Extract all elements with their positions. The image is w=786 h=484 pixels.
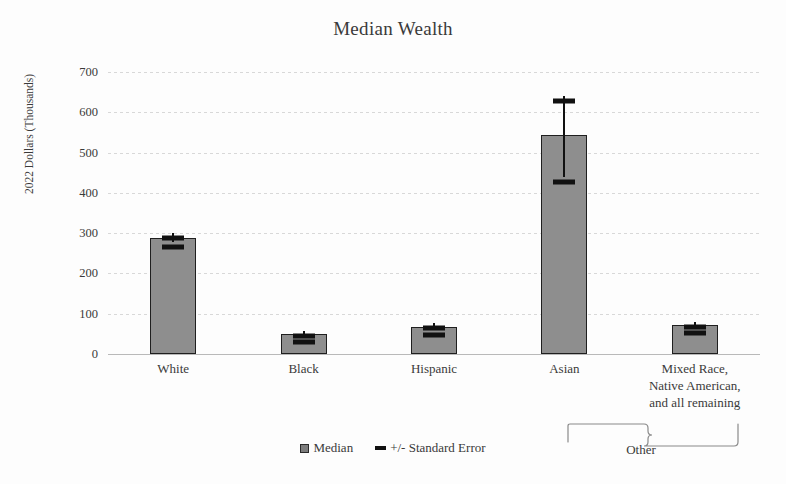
x-axis-label-line: Mixed Race, xyxy=(630,360,760,377)
bar-slot xyxy=(238,72,368,354)
legend-dash-icon xyxy=(375,446,386,450)
legend-item[interactable]: Median xyxy=(300,440,353,456)
x-axis-label-line: Native American, xyxy=(630,377,760,394)
error-bar-upper-cap xyxy=(684,324,706,329)
y-axis-tick-labels: 7006005004003002001000 xyxy=(52,72,98,354)
x-axis-label: Hispanic xyxy=(369,360,499,377)
x-axis-label: Asian xyxy=(499,360,629,377)
x-axis-label: White xyxy=(108,360,238,377)
y-axis-title: 2022 Dollars (Thousands) xyxy=(23,39,35,229)
chart-title: Median Wealth xyxy=(0,18,786,40)
error-bar-lower-cap xyxy=(684,331,706,336)
x-axis-label-line: Asian xyxy=(499,360,629,377)
x-axis-label-line: Black xyxy=(238,360,368,377)
x-axis-label: Black xyxy=(238,360,368,377)
plot-area xyxy=(108,72,760,354)
error-bar-lower-cap xyxy=(423,332,445,337)
error-bar-upper-cap xyxy=(553,99,575,104)
legend-square-icon xyxy=(300,444,309,453)
bar-slot xyxy=(630,72,760,354)
error-bar-lower-cap xyxy=(162,245,184,250)
y-tick-label: 700 xyxy=(52,65,98,80)
bar[interactable] xyxy=(150,238,196,354)
legend-label: +/- Standard Error xyxy=(390,440,485,456)
y-tick-label: 600 xyxy=(52,105,98,120)
bar[interactable] xyxy=(411,327,457,354)
error-bar-upper-cap xyxy=(423,325,445,330)
chart-legend: Median+/- Standard Error xyxy=(0,440,786,456)
axis-baseline xyxy=(108,354,760,355)
error-bar-lower-cap xyxy=(553,179,575,184)
y-tick-label: 0 xyxy=(52,347,98,362)
bar[interactable] xyxy=(672,325,718,354)
x-axis-label: Mixed Race,Native American,and all remai… xyxy=(630,360,760,411)
bar-slot xyxy=(108,72,238,354)
legend-item[interactable]: +/- Standard Error xyxy=(375,440,485,456)
bar-slot xyxy=(499,72,629,354)
error-bar-lower-cap xyxy=(293,339,315,344)
error-bar-upper-cap xyxy=(293,333,315,338)
y-tick-label: 200 xyxy=(52,266,98,281)
median-wealth-chart: Median Wealth 2022 Dollars (Thousands) 7… xyxy=(0,0,786,484)
x-axis-label-line: White xyxy=(108,360,238,377)
x-axis-label-line: and all remaining xyxy=(630,394,760,411)
error-bar-upper-cap xyxy=(162,236,184,241)
y-tick-label: 100 xyxy=(52,306,98,321)
legend-label: Median xyxy=(313,440,353,456)
error-bar-stem xyxy=(563,96,565,177)
y-tick-label: 400 xyxy=(52,185,98,200)
bar-slot xyxy=(369,72,499,354)
y-tick-label: 500 xyxy=(52,145,98,160)
y-tick-label: 300 xyxy=(52,226,98,241)
x-axis-label-line: Hispanic xyxy=(369,360,499,377)
